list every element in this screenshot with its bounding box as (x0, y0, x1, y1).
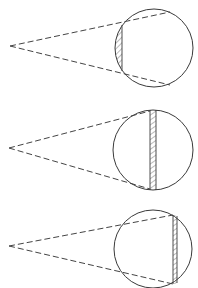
ray-lower (9, 246, 173, 284)
panel-2 (9, 110, 193, 190)
ray-upper (9, 215, 173, 246)
ray-upper (10, 12, 170, 46)
ray-upper (9, 111, 150, 148)
hatched-strip (173, 215, 177, 284)
ray-lower (10, 46, 170, 85)
ray-lower (9, 148, 150, 189)
hatched-strip (150, 110, 156, 190)
panel-1 (10, 9, 193, 87)
sphere-outline (114, 210, 192, 288)
panel-3 (9, 210, 192, 288)
diagram-canvas (0, 0, 198, 288)
